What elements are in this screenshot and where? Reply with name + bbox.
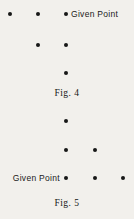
caption-prefix: Fig. bbox=[55, 198, 72, 208]
lattice-dot bbox=[36, 12, 40, 16]
lattice-dot-given-point bbox=[64, 176, 68, 180]
given-point-label-fig-5: Given Point bbox=[13, 174, 60, 183]
caption-number: 4 bbox=[74, 88, 79, 98]
lattice-dot bbox=[64, 119, 68, 123]
lattice-dot bbox=[93, 148, 97, 152]
lattice-dot bbox=[93, 176, 97, 180]
lattice-dot bbox=[8, 12, 12, 16]
caption-number: 5 bbox=[74, 198, 79, 208]
lattice-dot-given-point bbox=[64, 12, 68, 16]
lattice-dot bbox=[121, 176, 125, 180]
figure-caption-fig-4: Fig.4 bbox=[0, 88, 134, 99]
lattice-dot bbox=[64, 148, 68, 152]
figure-caption-fig-5: Fig.5 bbox=[0, 198, 134, 209]
caption-prefix: Fig. bbox=[55, 88, 72, 98]
lattice-dot bbox=[64, 43, 68, 47]
given-point-label-fig-4: Given Point bbox=[71, 10, 118, 19]
lattice-dot bbox=[64, 71, 68, 75]
lattice-dot bbox=[36, 43, 40, 47]
figure-page: Given Point Fig.4 Given Point Fig.5 bbox=[0, 0, 134, 219]
